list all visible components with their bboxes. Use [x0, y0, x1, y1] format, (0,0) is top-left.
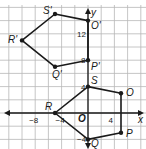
coordinate-plane: yxO−8−444−4812RSOPQR'S'O'P'Q' [0, 0, 146, 149]
y-tick-label: 4 [81, 83, 86, 92]
vertex-point [20, 38, 24, 42]
vertex-point [86, 137, 90, 141]
vertex-point [86, 18, 90, 22]
x-axis-left-arrow-icon [4, 110, 10, 116]
vertex-label: O' [91, 20, 102, 31]
vertex-label: R' [8, 34, 18, 45]
vertex-label: S [91, 75, 98, 86]
vertex-label: R [45, 101, 52, 112]
y-axis-label: y [90, 7, 97, 18]
x-tick-label: −8 [29, 116, 39, 125]
vertex-point [53, 111, 57, 115]
vertex-label: O [126, 87, 134, 98]
vertex-label: P' [91, 61, 101, 72]
x-tick-label: −4 [56, 116, 66, 125]
pentagon-image [22, 14, 88, 67]
vertex-point [86, 84, 90, 88]
vertex-label: S' [43, 5, 53, 16]
y-tick-label: 8 [81, 56, 86, 65]
vertex-label: Q' [52, 69, 63, 80]
origin-label: O [78, 113, 86, 124]
vertex-point [119, 131, 123, 135]
vertex-label: Q [91, 138, 99, 149]
x-tick-label: 4 [108, 116, 113, 125]
y-tick-label: 12 [77, 30, 86, 39]
vertex-point [53, 12, 57, 16]
y-tick-label: −4 [77, 135, 87, 144]
vertex-point [86, 58, 90, 62]
vertex-label: P [126, 128, 133, 139]
labels: yxO−8−444−4812RSOPQR'S'O'P'Q' [8, 5, 144, 149]
vertex-point [119, 91, 123, 95]
x-axis-label: x [137, 114, 144, 125]
